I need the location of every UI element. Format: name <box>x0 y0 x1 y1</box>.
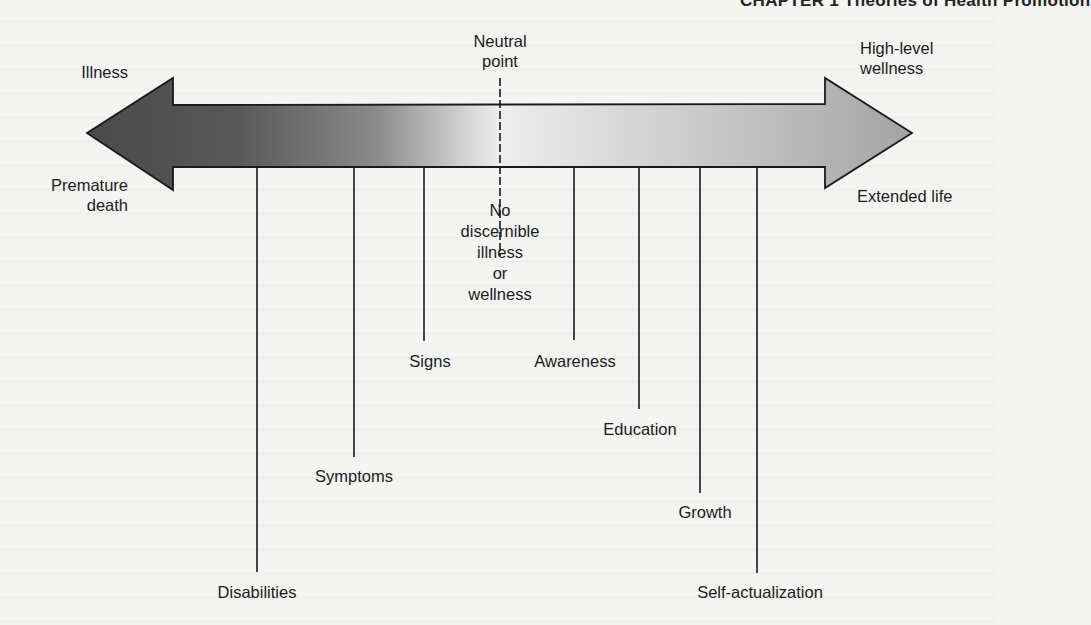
label-education: Education <box>580 419 700 439</box>
label-self-actualization: Self-actualization <box>680 582 840 602</box>
label-disabilities: Disabilities <box>197 582 317 602</box>
label-no-discernible-illness-or-wellness: No discernible illness or wellness <box>440 200 560 305</box>
label-wellness: wellness <box>860 58 933 78</box>
label-death: death <box>24 195 128 215</box>
label-extended-life: Extended life <box>857 186 952 206</box>
label-high-level: High-level <box>860 38 933 58</box>
label-high-level-wellness: High-level wellness <box>860 38 933 78</box>
label-symptoms: Symptoms <box>294 466 414 486</box>
label-premature-death: Premature death <box>24 175 128 215</box>
label-awareness: Awareness <box>515 351 635 371</box>
desc-line-3: illness <box>440 242 560 263</box>
label-point: point <box>450 51 550 71</box>
label-neutral-point: Neutral point <box>450 31 550 71</box>
desc-line-5: wellness <box>440 284 560 305</box>
label-growth: Growth <box>655 502 755 522</box>
desc-line-4: or <box>440 263 560 284</box>
label-premature: Premature <box>24 175 128 195</box>
label-illness: Illness <box>40 62 128 82</box>
desc-line-1: No <box>440 200 560 221</box>
label-signs: Signs <box>380 351 480 371</box>
label-neutral: Neutral <box>450 31 550 51</box>
desc-line-2: discernible <box>440 221 560 242</box>
